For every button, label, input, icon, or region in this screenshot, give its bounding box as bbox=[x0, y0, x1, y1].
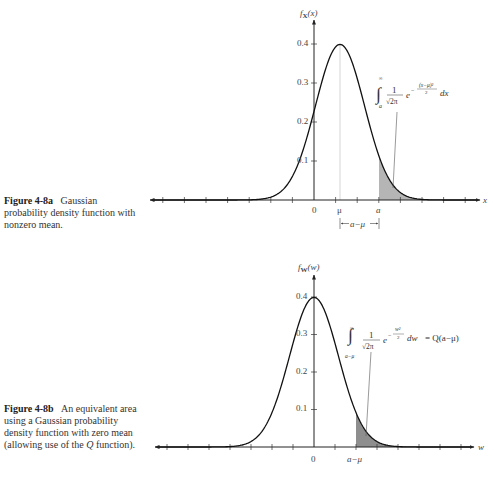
svg-text:(x−μ)²: (x−μ)² bbox=[419, 82, 434, 89]
integral-leader-line bbox=[366, 352, 371, 436]
svg-text:e: e bbox=[406, 90, 410, 100]
svg-text:∞: ∞ bbox=[350, 326, 354, 331]
svg-text:a−μ: a−μ bbox=[350, 219, 366, 229]
svg-text:a−μ: a−μ bbox=[345, 353, 354, 359]
y-axis-label: fX(x) bbox=[300, 8, 318, 20]
x-axis-label: w bbox=[478, 442, 484, 452]
svg-text:w²: w² bbox=[395, 326, 401, 332]
ytick-0.4: 0.4 bbox=[297, 38, 309, 48]
chart-4-8b: fW(w) w 0.1 0.2 0.3 0.4 0 a−μ ∫ ∞ a−μ 1 … bbox=[155, 262, 484, 464]
charts-canvas: fX(x) x 0.1 0.2 0.3 0.4 0 μ a a−μ ∫ ∞ a … bbox=[0, 0, 495, 493]
ytick-0.3: 0.3 bbox=[296, 328, 308, 338]
svg-text:√2π: √2π bbox=[362, 342, 374, 351]
xtick-mu: μ bbox=[337, 205, 342, 215]
xtick-zero: 0 bbox=[311, 454, 316, 464]
y-axis-label: fW(w) bbox=[298, 262, 320, 274]
x-axis-label: x bbox=[482, 195, 487, 205]
svg-text:√2π: √2π bbox=[386, 97, 398, 106]
svg-text:1: 1 bbox=[392, 85, 397, 95]
svg-text:dx: dx bbox=[440, 88, 449, 98]
svg-text:2: 2 bbox=[397, 335, 400, 340]
integral-leader-line bbox=[393, 112, 397, 188]
svg-text:2: 2 bbox=[425, 90, 428, 95]
ytick-0.1: 0.1 bbox=[297, 155, 308, 165]
svg-text:= Q(a−μ): = Q(a−μ) bbox=[425, 333, 459, 343]
a-minus-mu-bracket: a−μ bbox=[340, 218, 379, 229]
xtick-zero: 0 bbox=[312, 205, 317, 215]
svg-text:dw: dw bbox=[407, 333, 418, 343]
ytick-0.2: 0.2 bbox=[297, 116, 308, 126]
ytick-0.2: 0.2 bbox=[296, 366, 307, 376]
shaded-tail-area bbox=[356, 413, 470, 447]
svg-text:∫: ∫ bbox=[375, 84, 382, 105]
integral-expression: ∫ ∞ a 1 √2π e − (x−μ)² 2 dx bbox=[375, 76, 449, 109]
svg-text:∞: ∞ bbox=[379, 76, 383, 81]
svg-text:1: 1 bbox=[369, 330, 374, 340]
xtick-a: a bbox=[376, 205, 381, 215]
svg-text:a: a bbox=[379, 103, 382, 109]
ytick-0.3: 0.3 bbox=[297, 77, 309, 87]
chart-4-8a: fX(x) x 0.1 0.2 0.3 0.4 0 μ a a−μ ∫ ∞ a … bbox=[150, 8, 487, 229]
xtick-a-minus-mu: a−μ bbox=[347, 454, 363, 464]
ytick-0.1: 0.1 bbox=[296, 403, 307, 413]
ytick-0.4: 0.4 bbox=[296, 291, 308, 301]
svg-text:−: − bbox=[411, 87, 415, 93]
integral-expression: ∫ ∞ a−μ 1 √2π e − w² 2 dw = Q(a−μ) bbox=[345, 325, 459, 359]
svg-text:−: − bbox=[388, 332, 392, 338]
svg-text:e: e bbox=[383, 335, 387, 345]
